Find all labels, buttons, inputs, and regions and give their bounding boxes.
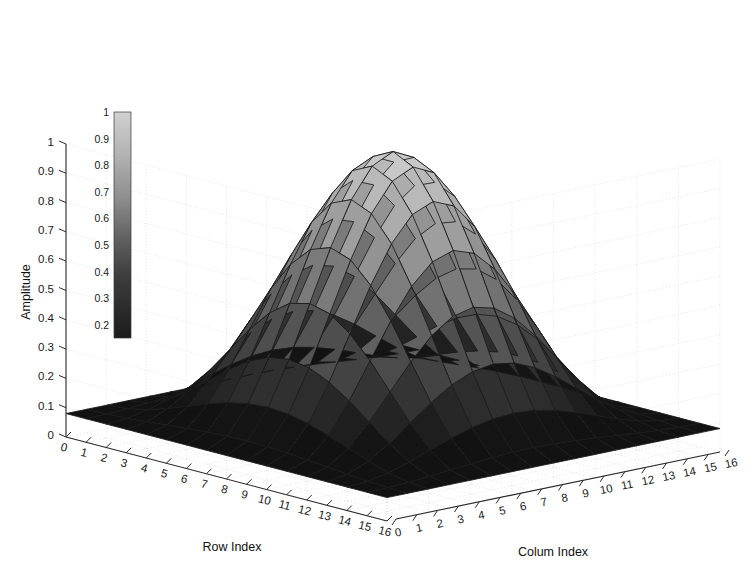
y-tick-label: 12 [640, 473, 655, 487]
colorbar-tick-label: 0.9 [94, 133, 109, 145]
z-tick-label: 0.6 [38, 253, 54, 265]
colorbar-tick-labels: 10.90.80.70.60.50.40.30.2 [94, 106, 109, 331]
z-tick-label: 0.9 [38, 165, 54, 177]
z-tick-label: 0.4 [38, 312, 55, 324]
y-tick-label: 11 [620, 478, 634, 492]
z-tick-label: 0.5 [38, 283, 54, 295]
z-tick-label: 0.7 [38, 224, 54, 236]
x-axis-title: Row Index [202, 540, 262, 554]
z-tick-label: 1 [48, 136, 54, 148]
colorbar-tick-label: 0.6 [94, 212, 109, 224]
colorbar-tick-label: 0.7 [94, 186, 109, 198]
z-tick-label: 0.1 [38, 400, 54, 412]
z-tick-label: 0.8 [38, 195, 54, 207]
colorbar-tick-label: 0.8 [94, 159, 109, 171]
y-tick-label: 16 [724, 456, 739, 470]
z-tick-label: 0.3 [38, 341, 54, 353]
z-tick-label: 0 [48, 429, 54, 441]
y-axis-title: Colum Index [518, 545, 589, 559]
colorbar-tick-label: 0.3 [94, 292, 109, 304]
colorbar-tick-label: 0.5 [94, 239, 109, 251]
y-tick-label: 13 [661, 469, 676, 483]
z-axis-title: Amplitude [19, 264, 33, 320]
y-tick-label: 15 [703, 460, 718, 474]
colorbar-gradient [114, 112, 131, 338]
z-tick-label: 0.2 [38, 370, 54, 382]
y-tick-label: 10 [599, 482, 614, 496]
colorbar-tick-label: 0.4 [94, 266, 109, 278]
colorbar-tick-label: 0.2 [94, 319, 109, 331]
surface-plot-figure: 00.10.20.30.40.50.60.70.80.9101234567891… [0, 0, 755, 578]
surface-plot-canvas: 00.10.20.30.40.50.60.70.80.9101234567891… [0, 0, 755, 578]
colorbar-tick-label: 1 [103, 106, 109, 118]
